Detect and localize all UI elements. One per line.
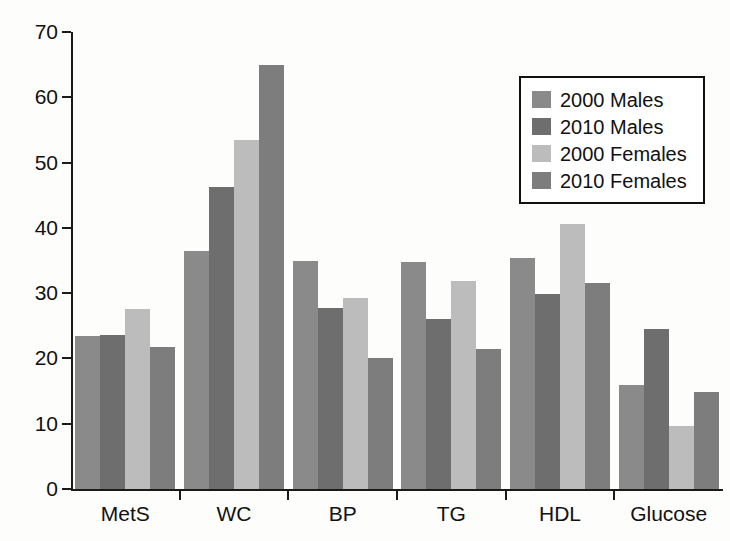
x-axis-tick [396, 491, 398, 500]
x-axis-tick-label: BP [288, 503, 397, 524]
bar [585, 283, 610, 489]
bar [535, 294, 560, 489]
x-axis-tick [613, 491, 615, 500]
bar [234, 140, 259, 489]
bar [644, 329, 669, 489]
bar [150, 347, 175, 489]
bar [75, 336, 100, 489]
bar [401, 262, 426, 489]
x-axis-tick-label: Glucose [614, 503, 723, 524]
bar [694, 392, 719, 489]
legend-swatch-icon [532, 145, 551, 162]
bar-chart: 010203040506070 MetSWCBPTGHDLGlucose 200… [0, 0, 730, 541]
chart-legend: 2000 Males2010 Males2000 Females2010 Fem… [519, 76, 705, 204]
x-axis-tick-label: HDL [506, 503, 615, 524]
bar [619, 385, 644, 489]
bar [184, 251, 209, 489]
bar [510, 258, 535, 489]
legend-swatch-icon [532, 172, 551, 189]
legend-swatch-icon [532, 118, 551, 135]
bar [426, 319, 451, 489]
bar [669, 426, 694, 489]
legend-item-label: 2010 Females [560, 171, 687, 191]
bar [451, 281, 476, 489]
legend-item: 2000 Males [532, 86, 687, 113]
x-axis-tick-label: TG [397, 503, 506, 524]
bar [560, 224, 585, 489]
x-axis-tick [505, 491, 507, 500]
bar [100, 335, 125, 489]
legend-item: 2010 Females [532, 167, 687, 194]
bar [259, 65, 284, 489]
x-axis-tick [179, 491, 181, 500]
legend-swatch-icon [532, 91, 551, 108]
legend-item-label: 2000 Females [560, 144, 687, 164]
bar [293, 261, 318, 490]
legend-item: 2010 Males [532, 113, 687, 140]
bar [318, 308, 343, 489]
x-axis-tick-label: WC [180, 503, 289, 524]
bars-layer [0, 0, 730, 489]
bar [343, 298, 368, 489]
bar [209, 187, 234, 489]
bar [368, 358, 393, 489]
legend-item: 2000 Females [532, 140, 687, 167]
bar [125, 309, 150, 489]
legend-item-label: 2010 Males [560, 117, 663, 137]
x-axis-tick-label: MetS [71, 503, 180, 524]
legend-item-label: 2000 Males [560, 90, 663, 110]
bar [476, 349, 501, 489]
x-axis-tick [287, 491, 289, 500]
